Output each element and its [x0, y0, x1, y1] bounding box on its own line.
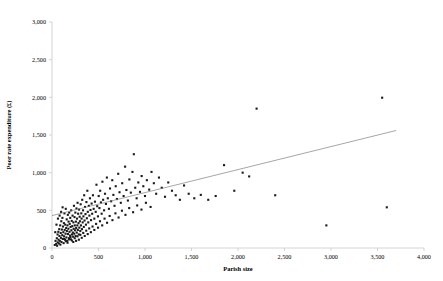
data-point [88, 227, 90, 229]
data-point [124, 214, 126, 216]
data-point [61, 217, 63, 219]
data-point [66, 218, 68, 220]
data-point [153, 182, 155, 184]
data-point [89, 197, 91, 199]
data-point [80, 212, 82, 214]
data-point [75, 221, 77, 223]
data-point [68, 238, 70, 240]
data-point [111, 219, 113, 221]
data-point [80, 224, 82, 226]
data-point [74, 229, 76, 231]
data-point [106, 222, 108, 224]
data-point [60, 220, 62, 222]
data-point [76, 224, 78, 226]
data-point [124, 166, 126, 168]
data-point [121, 210, 123, 212]
data-point [325, 224, 327, 226]
data-point [85, 201, 87, 203]
data-point [73, 205, 75, 207]
data-point [76, 218, 78, 220]
data-point [386, 206, 388, 208]
data-point [150, 171, 152, 173]
data-point [96, 205, 98, 207]
data-point [136, 197, 138, 199]
data-point [89, 209, 91, 211]
data-point [92, 194, 94, 196]
data-point [60, 241, 62, 243]
data-point [66, 230, 68, 232]
data-point [83, 226, 85, 228]
data-point [179, 199, 181, 201]
data-point [86, 217, 88, 219]
data-point [79, 216, 81, 218]
data-point [88, 215, 90, 217]
data-point [81, 228, 83, 230]
data-point [123, 195, 125, 197]
data-point [58, 235, 60, 237]
y-axis-tick-label: 500 [37, 207, 46, 214]
data-point [111, 179, 113, 181]
data-point [146, 179, 148, 181]
data-point [77, 213, 79, 215]
data-point [175, 194, 177, 196]
data-point [65, 233, 67, 235]
data-point [67, 228, 69, 230]
data-point [72, 221, 74, 223]
data-point [81, 237, 83, 239]
data-point [71, 233, 73, 235]
data-point [114, 212, 116, 214]
data-point [81, 199, 83, 201]
data-point [207, 199, 209, 201]
data-point [128, 178, 130, 180]
x-axis: 05001,0001,5002,0002,5003,0003,5004,000 [50, 248, 431, 260]
data-point [63, 242, 65, 244]
trendline-segment [52, 130, 396, 215]
scatter-chart: 05001,0001,5002,0002,5003,000 05001,0001… [0, 0, 443, 281]
data-points-group [54, 97, 388, 247]
data-point [54, 240, 56, 242]
data-point [121, 182, 123, 184]
data-point [107, 197, 109, 199]
y-axis-tick-label: 2,000 [32, 94, 46, 101]
data-point [233, 190, 235, 192]
data-point [79, 220, 81, 222]
data-point [171, 190, 173, 192]
data-point [70, 229, 72, 231]
data-point [62, 231, 64, 233]
data-point [55, 224, 57, 226]
x-axis-tick-label: 2,000 [231, 253, 245, 260]
data-point [57, 231, 59, 233]
data-point [103, 209, 105, 211]
data-point [86, 190, 88, 192]
data-point [82, 215, 84, 217]
data-point [58, 228, 60, 230]
data-point [57, 218, 59, 220]
data-point [164, 196, 166, 198]
data-point [77, 202, 79, 204]
data-point [62, 206, 64, 208]
data-point [69, 236, 71, 238]
data-point [74, 224, 76, 226]
data-point [91, 203, 93, 205]
data-point [101, 181, 103, 183]
data-point [61, 234, 63, 236]
data-point [59, 224, 61, 226]
data-point [61, 228, 63, 230]
data-point [75, 240, 77, 242]
data-point [84, 235, 86, 237]
data-point [82, 232, 84, 234]
data-point [215, 195, 217, 197]
data-point [84, 219, 86, 221]
data-point [56, 245, 58, 247]
data-point [63, 238, 65, 240]
data-point [95, 223, 97, 225]
data-point [82, 209, 84, 211]
x-axis-tick-label: 500 [94, 253, 103, 260]
data-point [98, 195, 100, 197]
data-point [136, 204, 138, 206]
data-point [248, 175, 250, 177]
y-axis-title: Poor rate expenditure (£) [5, 101, 13, 170]
y-axis-tick-label: 1,500 [32, 131, 46, 138]
data-point [65, 208, 67, 210]
data-point [128, 207, 130, 209]
